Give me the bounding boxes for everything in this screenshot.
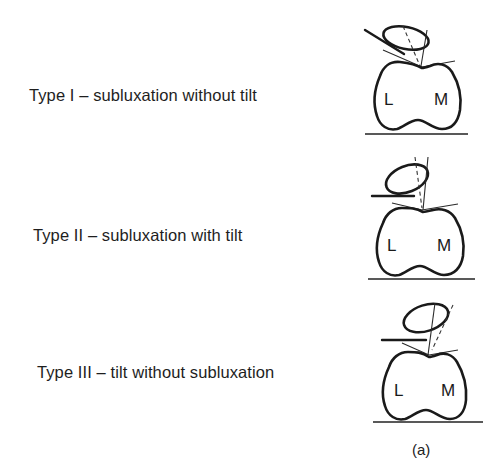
lateral-label-2: L [387, 236, 396, 255]
figure-caption: (a) [412, 441, 430, 458]
medial-label-2: M [437, 236, 451, 255]
type-3-diagram: L M [373, 299, 483, 422]
medial-label-3: M [441, 381, 455, 400]
patella-3 [400, 299, 452, 338]
patellofemoral-diagram: L M L M L M (a) [0, 0, 503, 472]
lateral-label-3: L [394, 381, 403, 400]
type-1-diagram: L M [365, 22, 468, 134]
type-2-diagram: L M [368, 157, 475, 279]
lateral-label-1: L [384, 90, 393, 109]
medial-label-1: M [434, 90, 448, 109]
